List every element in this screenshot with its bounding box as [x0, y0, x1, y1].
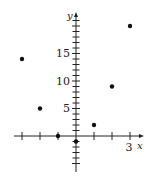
- scatter-plot: 510153 x y: [0, 0, 149, 186]
- x-axis-arrow-icon: [139, 134, 144, 138]
- y-axis-arrow-icon: [74, 12, 78, 17]
- x-tick-label: 3: [126, 141, 133, 154]
- data-point: [20, 57, 24, 61]
- data-point: [38, 106, 42, 110]
- y-tick-label: 5: [63, 102, 70, 115]
- data-point: [110, 84, 114, 88]
- y-tick-label: 15: [56, 47, 70, 60]
- data-point: [92, 123, 96, 127]
- data-point: [128, 24, 132, 28]
- data-point: [56, 134, 60, 138]
- y-tick-label: 10: [56, 75, 70, 88]
- x-axis-label: x: [137, 140, 143, 151]
- data-point: [74, 139, 78, 143]
- y-axis-label: y: [66, 10, 73, 21]
